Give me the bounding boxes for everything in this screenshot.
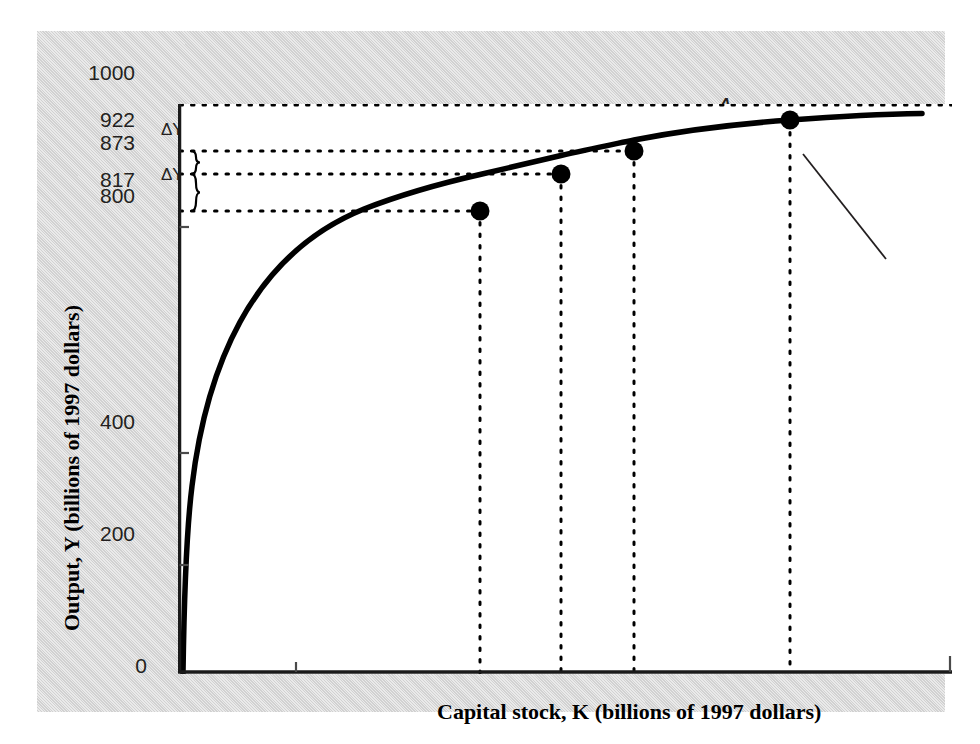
y-tick-label-400: 400 [59, 410, 135, 434]
y-tick-label-200: 200 [59, 522, 135, 546]
x-axis-title: Capital stock, K (billions of 1997 dolla… [437, 699, 821, 725]
actual-2000-leader-line [803, 154, 886, 259]
data-point-d[interactable] [625, 142, 644, 161]
brace-delta-49 [191, 151, 200, 174]
y-tick-label-922: 922 [59, 108, 135, 132]
chart-svg [178, 104, 952, 674]
y-tick-label-873: 873 [59, 131, 135, 155]
data-point-b[interactable] [471, 202, 490, 221]
data-point-c[interactable] [552, 165, 571, 184]
figure-panel: Output, Y (billions of 1997 dollars) 100… [37, 31, 945, 712]
plot-canvas [178, 104, 952, 674]
axis-ticks [180, 227, 951, 672]
production-function-curve [183, 114, 922, 674]
delta-braces [191, 151, 200, 211]
figure-page: Output, Y (billions of 1997 dollars) 100… [0, 0, 980, 744]
y-tick-label-1000: 1000 [59, 61, 135, 85]
y-tick-label-800: 800 [59, 184, 135, 208]
vertical-droplines [480, 121, 790, 673]
curve-draft [182, 174, 480, 673]
x-tick-label-0: 0 [135, 654, 147, 678]
y-axis-title: Output, Y (billions of 1997 dollars) [59, 305, 85, 631]
brace-delta-56 [191, 174, 200, 211]
data-point-a[interactable] [781, 111, 800, 130]
